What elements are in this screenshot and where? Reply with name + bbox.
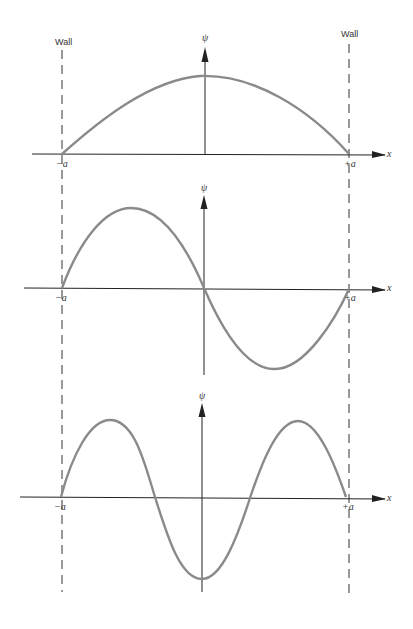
right-tick-1: +a [344,159,356,169]
panel-3 [20,403,386,592]
x-label-3: x [387,493,391,503]
x-label-1: x [387,149,391,159]
right-tick-2: +a [344,293,356,303]
left-tick-3: −a [54,502,66,512]
left-tick-1: −a [56,159,68,169]
psi-label-2: ψ [201,183,207,193]
psi-axis-arrow-icon [202,47,209,62]
wall-left-label: Wall [55,38,72,47]
x-axis-1 [32,154,385,155]
x-axis-arrow-icon [372,286,386,293]
particle-in-box-wavefunctions-diagram [0,0,413,629]
x-axis-arrow-icon [372,151,386,158]
panel-2 [24,195,386,375]
psi-axis-arrow-icon [199,403,206,417]
psi-axis-arrow-icon [201,195,208,209]
panel-1 [32,47,386,158]
wall-right-label: Wall [341,30,358,39]
x-label-2: x [387,283,391,293]
x-axis-arrow-icon [372,495,386,502]
left-tick-2: −a [55,293,67,303]
right-tick-3: +a [342,502,354,512]
psi-label-1: ψ [202,33,208,43]
wavefunction-curve-3 [61,420,346,579]
psi-label-3: ψ [199,391,205,401]
